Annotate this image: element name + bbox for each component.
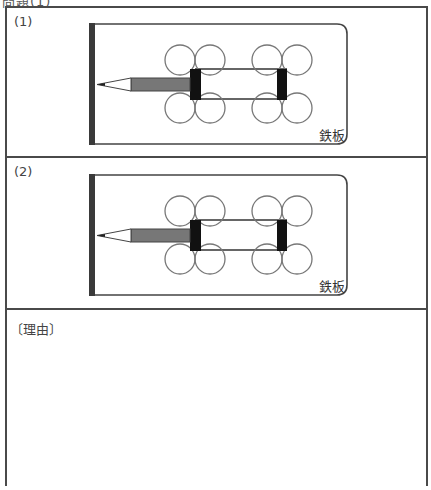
magnet-block-right <box>277 69 287 100</box>
pencil-body <box>131 229 190 242</box>
answer-sheet-frame: (1) 鉄板 <box>5 6 428 486</box>
magnet-block-left <box>190 220 201 251</box>
pencil-body <box>131 78 190 91</box>
magnet-block-right <box>277 220 287 251</box>
wall-icon <box>89 174 95 296</box>
question-cell-2: (2) 鉄板 <box>7 158 426 310</box>
wall-icon <box>89 23 95 145</box>
iron-plate-label: 鉄板 <box>319 279 345 294</box>
reason-label: 〔理由〕 <box>10 319 62 338</box>
magnet-block-left <box>190 69 201 100</box>
question-cell-1: (1) 鉄板 <box>7 8 426 158</box>
reason-answer-area[interactable] <box>7 340 426 490</box>
reason-cell: 〔理由〕 <box>7 310 426 490</box>
magnet-car-diagram-2[interactable]: 鉄板 <box>7 158 430 310</box>
magnet-car-diagram-1[interactable]: 鉄板 <box>7 8 430 158</box>
iron-plate-label: 鉄板 <box>319 128 345 143</box>
